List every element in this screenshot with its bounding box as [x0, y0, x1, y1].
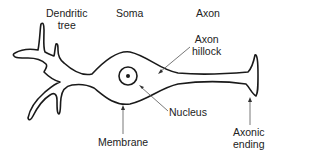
label-axon-hillock: Axon hillock [192, 33, 221, 57]
label-axonic-ending-line1: Axonic [233, 126, 265, 138]
label-dendritic-line2: tree [46, 19, 87, 31]
label-dendritic-tree: Dendritic tree [46, 7, 87, 31]
label-axonic-ending-line2: ending [233, 138, 265, 150]
arrowhead-icon [139, 85, 144, 89]
label-axon-hillock-line1: Axon [192, 33, 221, 45]
label-axon: Axon [196, 7, 220, 19]
label-membrane: Membrane [98, 136, 148, 148]
arrowhead-icon [248, 97, 252, 102]
label-axon-hillock-line2: hillock [192, 45, 221, 57]
label-axonic-ending: Axonic ending [233, 126, 265, 150]
label-dendritic-line1: Dendritic [46, 7, 87, 19]
label-soma: Soma [116, 7, 143, 19]
axon-hillock-pointer [160, 47, 190, 72]
label-nucleus: Nucleus [169, 106, 207, 118]
nucleolus-dot [126, 74, 130, 78]
arrowhead-icon [121, 105, 125, 110]
